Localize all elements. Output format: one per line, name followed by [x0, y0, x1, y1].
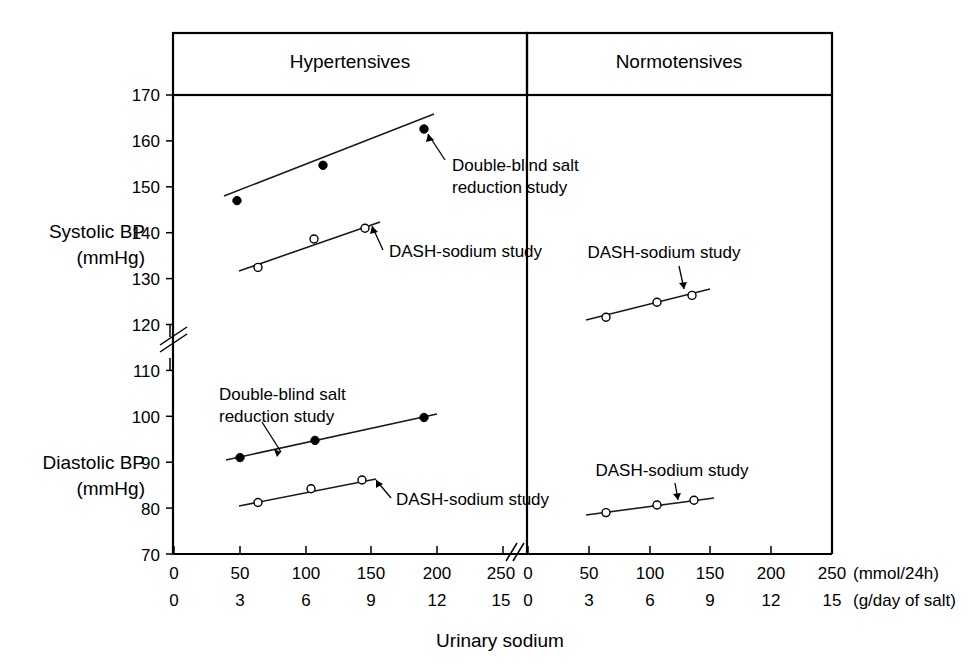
- x-label-right-gday-3: 3: [584, 591, 593, 610]
- annotation-label-line2: reduction study: [219, 407, 335, 426]
- diastolic-bp-title-line2: (mmHg): [76, 478, 145, 499]
- x-axis-labels-mmol-left: 0 50 100 150 200 250: [169, 564, 515, 583]
- data-point: [233, 196, 241, 204]
- annotation-label-line1: DASH-sodium study: [389, 242, 543, 261]
- x-label-right-gday-0: 0: [523, 591, 532, 610]
- series-hyp-dia-dash: [239, 476, 376, 507]
- x-label-right-mmol-150: 150: [696, 564, 724, 583]
- x-label-left-gday-15: 15: [492, 591, 511, 610]
- x-label-left-gday-0: 0: [169, 591, 178, 610]
- leader-arrowhead: [679, 282, 687, 289]
- y-tick-label-150: 150: [132, 178, 160, 197]
- y-tick-label-100: 100: [132, 408, 160, 427]
- data-point: [602, 313, 610, 321]
- x-label-left-mmol-250: 250: [487, 564, 515, 583]
- data-point: [254, 263, 262, 271]
- figure-root: Hypertensives Normotensives: [0, 0, 978, 669]
- data-point: [361, 224, 369, 232]
- data-point: [358, 476, 366, 484]
- systolic-bp-title-line2: (mmHg): [76, 247, 145, 268]
- data-point: [319, 161, 327, 169]
- y-tick-label-170: 170: [132, 86, 160, 105]
- data-point: [307, 485, 315, 493]
- x-label-right-gday-15: 15: [823, 591, 842, 610]
- x-label-right-mmol-250: 250: [818, 564, 846, 583]
- panel-title-normotensives: Normotensives: [616, 51, 743, 72]
- y-axis-titles: Systolic BP (mmHg) Diastolic BP (mmHg): [43, 221, 145, 499]
- annotation-label-line1: Double-blind salt: [219, 385, 346, 404]
- data-point: [236, 453, 244, 461]
- y-tick-label-110: 110: [133, 362, 160, 381]
- x-label-left-mmol-100: 100: [292, 564, 320, 583]
- leader-line: [262, 422, 281, 452]
- data-point: [310, 235, 318, 243]
- x-label-right-mmol-100: 100: [636, 564, 664, 583]
- annotation-label-line1: Double-blind salt: [452, 156, 579, 175]
- annotation-hyp-dia-double-blind: Double-blind salt reduction study: [219, 385, 346, 457]
- data-point: [254, 499, 262, 507]
- trendline-hyp-sys-double-blind: [224, 114, 434, 196]
- annotation-label-line2: reduction study: [452, 178, 568, 197]
- leader-arrowhead: [370, 226, 378, 234]
- leader-arrowhead: [673, 493, 681, 500]
- x-axis-title: Urinary sodium: [436, 630, 564, 651]
- x-axis-break-icon: [506, 543, 524, 561]
- data-point: [420, 125, 428, 133]
- annotation-hyp-sys-dash: DASH-sodium study: [370, 226, 543, 261]
- chart-canvas: Hypertensives Normotensives: [0, 0, 978, 669]
- x-axis-ticks-right: [528, 546, 832, 554]
- data-point: [653, 501, 661, 509]
- x-axis-labels-gday-left: 0 3 6 9 12 15: [169, 591, 510, 610]
- annotation-hyp-sys-double-blind: Double-blind salt reduction study: [426, 134, 579, 197]
- data-point: [653, 298, 661, 306]
- data-point: [602, 509, 610, 517]
- series-hyp-sys-dash: [239, 222, 380, 271]
- systolic-bp-title-line1: Systolic BP: [49, 221, 145, 242]
- x-label-left-mmol-200: 200: [423, 564, 451, 583]
- annotation-hyp-dia-dash: DASH-sodium study: [376, 480, 550, 509]
- annotation-label-line1: DASH-sodium study: [587, 243, 741, 262]
- data-point: [420, 413, 428, 421]
- series-hyp-sys-double-blind: [224, 114, 434, 205]
- y-tick-label-70: 70: [141, 546, 160, 565]
- y-tick-label-80: 80: [141, 500, 160, 519]
- x-axis-labels-mmol-right: 0 50 100 150 200 250: [523, 564, 846, 583]
- x-label-left-gday-12: 12: [428, 591, 447, 610]
- x-axis-ticks-left: [174, 546, 503, 554]
- series-norm-sys-dash: [586, 289, 710, 321]
- y-tick-label-120: 120: [132, 316, 160, 335]
- data-point: [311, 436, 319, 444]
- annotation-label-line1: DASH-sodium study: [396, 490, 550, 509]
- x-label-left-gday-6: 6: [301, 591, 310, 610]
- x-label-left-gday-9: 9: [366, 591, 375, 610]
- x-axis-units-mmol: (mmol/24h): [853, 564, 939, 583]
- data-point: [688, 291, 696, 299]
- x-axis-labels-gday-right: 0 3 6 9 12 15: [523, 591, 841, 610]
- annotation-norm-sys-dash: DASH-sodium study: [587, 243, 741, 289]
- y-tick-label-130: 130: [132, 270, 160, 289]
- x-label-left-mmol-0: 0: [169, 564, 178, 583]
- x-label-right-mmol-50: 50: [580, 564, 599, 583]
- x-label-left-gday-3: 3: [235, 591, 244, 610]
- y-tick-label-160: 160: [132, 132, 160, 151]
- x-axis-units-gday: (g/day of salt): [853, 591, 956, 610]
- annotation-norm-dia-dash: DASH-sodium study: [595, 461, 749, 500]
- panel-title-hypertensives: Hypertensives: [290, 51, 410, 72]
- x-label-right-mmol-0: 0: [523, 564, 532, 583]
- x-label-right-gday-12: 12: [762, 591, 781, 610]
- diastolic-bp-title-line1: Diastolic BP: [43, 452, 145, 473]
- series-norm-dia-dash: [586, 496, 714, 516]
- data-point: [690, 496, 698, 504]
- annotation-label-line1: DASH-sodium study: [595, 461, 749, 480]
- x-label-left-mmol-50: 50: [231, 564, 250, 583]
- x-label-right-gday-9: 9: [705, 591, 714, 610]
- x-label-right-mmol-200: 200: [757, 564, 785, 583]
- x-label-left-mmol-150: 150: [357, 564, 385, 583]
- x-label-right-gday-6: 6: [645, 591, 654, 610]
